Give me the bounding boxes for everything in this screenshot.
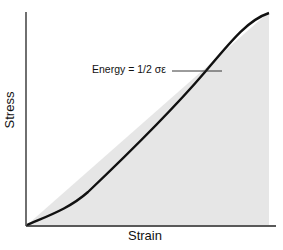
stress-strain-diagram — [0, 0, 283, 250]
energy-annotation: Energy = 1/2 σε — [92, 63, 166, 75]
y-axis-label: Stress — [2, 90, 17, 130]
x-axis-label: Strain — [128, 228, 162, 243]
energy-shaded-region — [27, 12, 269, 225]
